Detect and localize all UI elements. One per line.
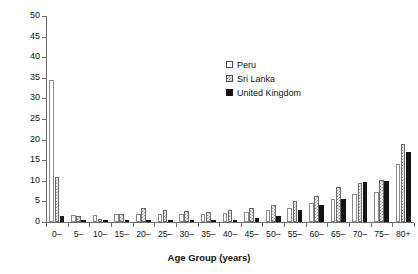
bar-peru [93, 215, 98, 222]
bar-uk [233, 220, 238, 222]
bar-peru [244, 212, 249, 222]
x-axis-line [46, 222, 414, 223]
legend-label-peru: Peru [237, 60, 256, 70]
bar-uk [81, 220, 86, 222]
x-tick-mark [46, 223, 47, 227]
bar-peru [287, 208, 292, 222]
y-tick-label: 0 [2, 216, 40, 226]
bar-srilanka [293, 201, 298, 222]
x-tick-mark [89, 223, 90, 227]
bar-uk [384, 181, 389, 222]
bar-uk [406, 152, 411, 222]
bar-peru [374, 192, 379, 222]
bar-srilanka [314, 196, 319, 222]
bar-peru [49, 80, 54, 222]
bar-uk [103, 220, 108, 222]
bar-peru [136, 214, 141, 222]
bar-peru [179, 214, 184, 222]
bar-srilanka [119, 214, 124, 222]
bar-srilanka [141, 208, 146, 222]
bar-peru [158, 214, 163, 222]
bar-srilanka [98, 219, 103, 222]
bar-uk [363, 182, 368, 222]
y-tick-label: 20 [2, 134, 40, 144]
x-tick-mark [306, 223, 307, 227]
x-tick-mark [154, 223, 155, 227]
x-tick-mark [414, 223, 415, 227]
bar-peru [201, 214, 206, 222]
bar-srilanka [336, 187, 341, 222]
bar-uk [125, 220, 130, 222]
bar-peru [352, 194, 357, 222]
x-tick-mark [284, 223, 285, 227]
legend-swatch-united-kingdom-icon [226, 89, 233, 96]
x-tick-mark [262, 223, 263, 227]
y-tick-label: 10 [2, 175, 40, 185]
bar-peru [396, 164, 401, 222]
x-tick-mark [219, 223, 220, 227]
bar-uk [146, 220, 151, 222]
bar-uk [60, 216, 65, 222]
x-tick-mark [349, 223, 350, 227]
bar-srilanka [55, 177, 60, 222]
x-tick-mark [198, 223, 199, 227]
bar-uk [276, 216, 281, 222]
legend-swatch-sri-lanka-icon [226, 75, 233, 82]
bar-peru [71, 215, 76, 222]
bar-srilanka [249, 208, 254, 222]
y-tick-label: 45 [2, 31, 40, 41]
legend-item-sri-lanka: Sri Lanka [226, 72, 301, 85]
bar-peru [331, 199, 336, 222]
x-tick-mark [241, 223, 242, 227]
bar-srilanka [401, 144, 406, 222]
legend-swatch-peru-icon [226, 61, 233, 68]
x-tick-mark [111, 223, 112, 227]
bar-peru [309, 203, 314, 222]
bar-srilanka [228, 210, 233, 222]
bar-srilanka [271, 205, 276, 222]
bar-srilanka [163, 210, 168, 222]
legend-item-united-kingdom: United Kingdom [226, 86, 301, 99]
bars-layer [46, 16, 414, 222]
bar-srilanka [358, 183, 363, 222]
bar-srilanka [206, 212, 211, 222]
bar-uk [190, 220, 195, 222]
bar-srilanka [379, 180, 384, 222]
y-tick-label: 35 [2, 72, 40, 82]
y-tick-label: 5 [2, 195, 40, 205]
bar-peru [266, 210, 271, 222]
y-tick-label: 40 [2, 51, 40, 61]
x-tick-mark [327, 223, 328, 227]
y-tick-label: 15 [2, 154, 40, 164]
x-tick-mark [176, 223, 177, 227]
x-tick-mark [68, 223, 69, 227]
y-tick-label: 30 [2, 92, 40, 102]
legend-label-sri-lanka: Sri Lanka [237, 74, 275, 84]
bar-peru [223, 213, 228, 222]
bar-srilanka [76, 216, 81, 222]
legend-item-peru: Peru [226, 58, 301, 71]
chart-legend: Peru Sri Lanka United Kingdom [226, 58, 301, 100]
bar-chart-figure: Proportion of Total (%) 0510152025303540… [0, 0, 418, 274]
bar-uk [255, 218, 260, 222]
bar-uk [168, 220, 173, 222]
bar-uk [298, 210, 303, 222]
x-tick-mark [133, 223, 134, 227]
y-tick-label: 25 [2, 113, 40, 123]
x-tick-mark [371, 223, 372, 227]
bar-peru [114, 214, 119, 222]
y-tick-label: 50 [2, 10, 40, 20]
legend-label-united-kingdom: United Kingdom [237, 88, 301, 98]
x-axis-title: Age Group (years) [0, 252, 418, 263]
x-tick-mark [392, 223, 393, 227]
bar-uk [319, 205, 324, 222]
x-tick-label: 80+ [388, 229, 418, 239]
bar-uk [341, 199, 346, 222]
bar-uk [211, 220, 216, 222]
bar-srilanka [184, 211, 189, 222]
